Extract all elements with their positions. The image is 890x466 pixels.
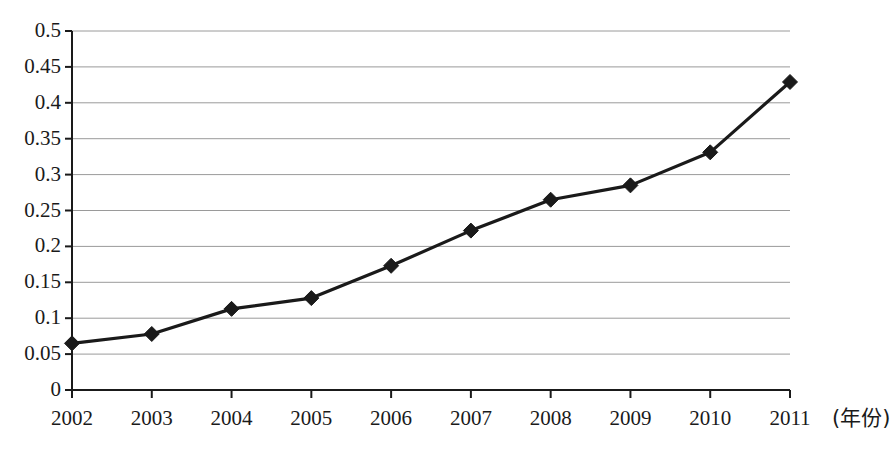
data-point-marker bbox=[224, 301, 239, 316]
x-tick-label: 2008 bbox=[511, 408, 591, 429]
data-point-marker bbox=[304, 291, 319, 306]
x-tick-label: 2009 bbox=[590, 408, 670, 429]
y-tick-label: 0.2 bbox=[1, 235, 61, 256]
x-tick-label: 2005 bbox=[271, 408, 351, 429]
x-axis-tick-marks bbox=[72, 390, 790, 398]
y-tick-label: 0.25 bbox=[1, 200, 61, 221]
x-tick-label: 2002 bbox=[32, 408, 112, 429]
y-tick-label: 0.5 bbox=[1, 20, 61, 41]
y-tick-label: 0 bbox=[1, 379, 61, 400]
x-tick-label: 2006 bbox=[351, 408, 431, 429]
data-point-marker bbox=[384, 258, 399, 273]
y-tick-label: 0.1 bbox=[1, 307, 61, 328]
series-line bbox=[72, 82, 790, 343]
data-point-marker bbox=[65, 336, 80, 351]
data-point-marker bbox=[543, 192, 558, 207]
x-tick-label: 2011 bbox=[750, 408, 830, 429]
data-point-marker bbox=[463, 223, 478, 238]
y-tick-label: 0.35 bbox=[1, 128, 61, 149]
y-axis-tick-marks bbox=[65, 31, 72, 390]
series-markers bbox=[65, 74, 798, 350]
data-point-marker bbox=[144, 326, 159, 341]
x-tick-label: 2003 bbox=[112, 408, 192, 429]
y-tick-label: 0.45 bbox=[1, 56, 61, 77]
x-axis-title: (年份) bbox=[832, 408, 890, 429]
data-point-marker bbox=[623, 178, 638, 193]
x-tick-label: 2004 bbox=[192, 408, 272, 429]
y-tick-label: 0.3 bbox=[1, 164, 61, 185]
x-tick-label: 2010 bbox=[670, 408, 750, 429]
y-tick-label: 0.05 bbox=[1, 343, 61, 364]
y-tick-label: 0.15 bbox=[1, 271, 61, 292]
x-tick-label: 2007 bbox=[431, 408, 511, 429]
y-tick-label: 0.4 bbox=[1, 92, 61, 113]
gridlines bbox=[72, 31, 790, 354]
